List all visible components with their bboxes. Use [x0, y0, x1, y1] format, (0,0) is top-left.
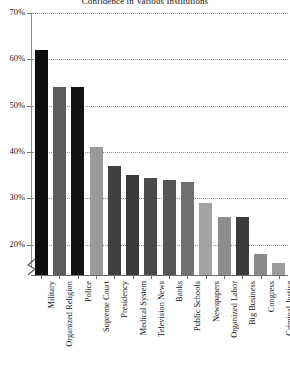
- x-axis-tick: [151, 275, 152, 279]
- y-axis-label: 20%: [0, 239, 25, 249]
- bars-group: [32, 13, 288, 275]
- bar[interactable]: [236, 217, 249, 275]
- bar[interactable]: [144, 178, 157, 275]
- x-axis-label: Banks: [173, 281, 186, 302]
- x-axis-tick: [224, 275, 225, 279]
- x-axis-label: Big Business: [246, 281, 259, 325]
- x-axis-tick: [41, 275, 42, 279]
- y-axis-label: 70%: [0, 7, 25, 17]
- bar[interactable]: [254, 254, 267, 275]
- y-axis-label: 30%: [0, 192, 25, 202]
- bar[interactable]: [218, 217, 231, 275]
- bar[interactable]: [90, 147, 103, 275]
- x-axis-label: Medical System: [137, 281, 150, 335]
- x-axis-tick: [78, 275, 79, 279]
- bar[interactable]: [181, 182, 194, 275]
- x-axis-label: Public Schools: [191, 281, 204, 331]
- y-axis-tick: [27, 198, 31, 199]
- x-axis-tick: [133, 275, 134, 279]
- bar[interactable]: [35, 50, 48, 275]
- x-axis-label: Police: [82, 281, 95, 302]
- x-axis-label: Organized Religion: [63, 281, 76, 347]
- x-axis-label: Presidency: [118, 281, 131, 318]
- x-axis-label: Congress: [265, 281, 278, 312]
- x-axis-tick: [261, 275, 262, 279]
- x-axis-labels-group: MilitaryOrganized ReligionPoliceSupreme …: [32, 281, 288, 381]
- bar[interactable]: [272, 263, 285, 275]
- x-axis-tick: [242, 275, 243, 279]
- y-axis-label: 40%: [0, 146, 25, 156]
- x-axis-label: Supreme Court: [100, 281, 113, 332]
- y-axis-label: 60%: [0, 53, 25, 63]
- x-axis-label: Organized Labor: [228, 281, 241, 338]
- bar[interactable]: [71, 87, 84, 275]
- bar[interactable]: [108, 166, 121, 275]
- x-axis-label: Newspapers: [210, 281, 223, 322]
- y-axis-tick: [27, 152, 31, 153]
- x-axis-tick: [59, 275, 60, 279]
- bar[interactable]: [163, 180, 176, 275]
- chart-container: Confidence in Various Institutions 20%30…: [0, 0, 290, 381]
- y-axis-tick: [27, 106, 31, 107]
- x-axis-label: Television News: [155, 281, 168, 337]
- chart-title: Confidence in Various Institutions: [0, 0, 290, 6]
- y-axis-tick: [27, 245, 31, 246]
- bar[interactable]: [199, 203, 212, 275]
- x-axis-tick: [96, 275, 97, 279]
- x-axis-tick: [187, 275, 188, 279]
- x-axis-label: Military: [45, 281, 58, 308]
- y-axis-tick: [27, 59, 31, 60]
- x-axis-line: [31, 275, 288, 276]
- bar[interactable]: [126, 175, 139, 275]
- y-axis-label: 50%: [0, 100, 25, 110]
- y-axis-tick: [27, 13, 31, 14]
- x-axis-tick: [114, 275, 115, 279]
- x-axis-tick: [279, 275, 280, 279]
- bar[interactable]: [53, 87, 66, 275]
- x-axis-label: Criminal Justice: [283, 281, 290, 336]
- x-axis-tick: [206, 275, 207, 279]
- x-axis-tick: [169, 275, 170, 279]
